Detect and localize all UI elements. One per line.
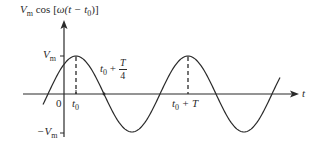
t-over-4-fraction: T4 [119,58,127,81]
t0-plus-T-label: t0 + T [172,98,198,112]
origin-label: 0 [56,98,62,109]
t0-label: t0 [72,98,79,112]
neg-vm-label: −Vm [37,126,57,140]
frac-num: T [120,58,126,68]
quarter-period-crossing-dot [103,93,106,96]
title-func: cos [36,3,51,15]
t0-quarter-label: t0 + T4 [100,58,127,81]
neg-vm-main: −V [37,125,51,137]
vm-label: Vm [43,49,56,63]
vm-sub: m [50,54,56,63]
t0-sub: 0 [75,103,79,112]
neg-vm-sub: m [51,131,57,140]
title-close: )] [91,3,98,15]
vm-main: V [43,48,50,60]
title-omega: ω [57,3,65,15]
title-arg: (t − t [65,3,88,15]
y-axis-title: Vm cos [ω(t − t0)] [20,4,99,18]
title-amp-sub: m [27,9,33,18]
t0T-plus: + T [179,97,198,109]
t-axis-label: t [302,88,305,99]
t0q-plus: + [107,62,119,74]
title-amp: V [20,3,27,15]
frac-den: 4 [120,71,125,81]
